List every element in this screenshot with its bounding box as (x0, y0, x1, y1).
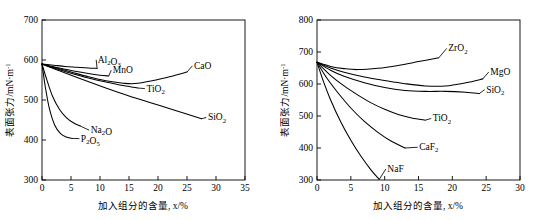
series-curve-naf (317, 62, 379, 179)
x-tick-label: 15 (414, 183, 424, 193)
chart-left-series-labels: Al2O3MnOCaOTiO2SiO2Na2OP2O5 (81, 55, 227, 147)
series-leader-sio2 (202, 117, 207, 118)
series-label-cao: CaO (194, 61, 212, 71)
chart-right-curves (317, 58, 483, 180)
chart-left-x-axis-title: 加入组分的含量, x/% (98, 200, 188, 211)
series-label-naf: NaF (387, 164, 403, 174)
chart-left-x-ticks: 05101520253035 (40, 176, 250, 193)
y-axis-title-right-text: 表面张力/mN·m (279, 69, 290, 137)
chart-right-plot-frame (317, 20, 520, 180)
x-tick-label: 35 (240, 183, 250, 193)
chart-left-svg: 300400500600700 05101520253035 Al2O3MnOC… (0, 0, 275, 220)
y-axis-title-left-text: 表面张力/mN·m (4, 69, 15, 137)
x-tick-label: 20 (153, 183, 163, 193)
series-label-sio2: SiO2 (486, 85, 505, 96)
x-axis-title-right-text: 加入组分的含量, x/% (373, 200, 463, 211)
x-tick-label: 25 (481, 183, 491, 193)
series-label-caf2: CaF2 (419, 142, 439, 153)
chart-right-x-axis-title: 加入组分的含量, x/% (373, 200, 463, 211)
x-tick-label: 0 (40, 183, 45, 193)
series-leader-caf2 (405, 147, 418, 148)
y-tick-label: 500 (24, 95, 39, 105)
y-tick-label: 700 (24, 15, 39, 25)
series-label-p2o5: P2O5 (81, 134, 101, 147)
series-curve-zro2 (317, 58, 439, 70)
series-leader-tio2 (425, 118, 431, 120)
chart-right-series-labels: ZrO2MgOSiO2TiO2CaF2NaF (387, 43, 510, 174)
series-leader-tio2 (138, 88, 145, 89)
chart-right-y-ticks: 300400500600700800 (299, 15, 321, 185)
chart-right-x-ticks: 051015202530 (315, 176, 525, 193)
series-label-zro2: ZrO2 (448, 43, 468, 54)
series-curve-sio2 (317, 62, 479, 93)
y-tick-label: 700 (299, 47, 314, 57)
x-axis-title-left-text: 加入组分的含量, x/% (98, 200, 188, 211)
y-tick-label: 500 (299, 111, 314, 121)
y-tick-label: 400 (24, 135, 39, 145)
chart-left-y-axis-title: 表面张力/mN·m-1 (4, 63, 15, 136)
x-tick-label: 20 (448, 183, 458, 193)
series-label-mno: MnO (113, 65, 133, 75)
y-axis-title-left-exponent: -1 (4, 63, 11, 69)
chart-right-y-axis-title: 表面张力/mN·m-1 (279, 63, 290, 136)
x-tick-label: 5 (69, 183, 74, 193)
svg-text:表面张力/mN·m-1: 表面张力/mN·m-1 (279, 63, 290, 136)
x-tick-label: 30 (211, 183, 221, 193)
x-tick-label: 25 (182, 183, 192, 193)
x-tick-label: 10 (95, 183, 105, 193)
chart-right-svg: 300400500600700800 051015202530 ZrO2MgOS… (275, 0, 550, 220)
chart-left-y-ticks: 300400500600700 (24, 15, 46, 185)
y-tick-label: 800 (299, 15, 314, 25)
chart-panel-left: 300400500600700 05101520253035 Al2O3MnOC… (0, 0, 275, 220)
series-label-sio2: SiO2 (208, 112, 227, 123)
x-tick-label: 0 (315, 183, 320, 193)
series-leader-na2o (80, 126, 89, 130)
series-label-mgo: MgO (490, 67, 510, 77)
x-tick-label: 30 (515, 183, 525, 193)
svg-text:加入组分的含量, x/%: 加入组分的含量, x/% (98, 200, 188, 211)
x-tick-label: 10 (380, 183, 390, 193)
series-leader-cao (187, 66, 192, 72)
series-curve-p2o5 (42, 64, 72, 138)
series-label-tio2: TiO2 (433, 113, 452, 124)
x-tick-label: 15 (124, 183, 134, 193)
series-leader-mno (109, 70, 112, 76)
series-curve-mgo (317, 62, 483, 86)
svg-text:表面张力/mN·m-1: 表面张力/mN·m-1 (4, 63, 15, 136)
figure-two-panel-surface-tension: 300400500600700 05101520253035 Al2O3MnOC… (0, 0, 551, 220)
y-tick-label: 400 (299, 143, 314, 153)
series-label-tio2: TiO2 (146, 84, 165, 95)
y-tick-label: 300 (24, 175, 39, 185)
series-leader-zro2 (439, 48, 447, 57)
chart-panel-right: 300400500600700800 051015202530 ZrO2MgOS… (275, 0, 550, 220)
svg-text:加入组分的含量, x/%: 加入组分的含量, x/% (373, 200, 463, 211)
series-leader-mgo (483, 72, 489, 79)
y-tick-label: 600 (299, 79, 314, 89)
series-leader-sio2 (479, 90, 484, 94)
y-axis-title-right-exponent: -1 (279, 63, 286, 69)
x-tick-label: 5 (348, 183, 353, 193)
y-tick-label: 300 (299, 175, 314, 185)
y-tick-label: 600 (24, 55, 39, 65)
